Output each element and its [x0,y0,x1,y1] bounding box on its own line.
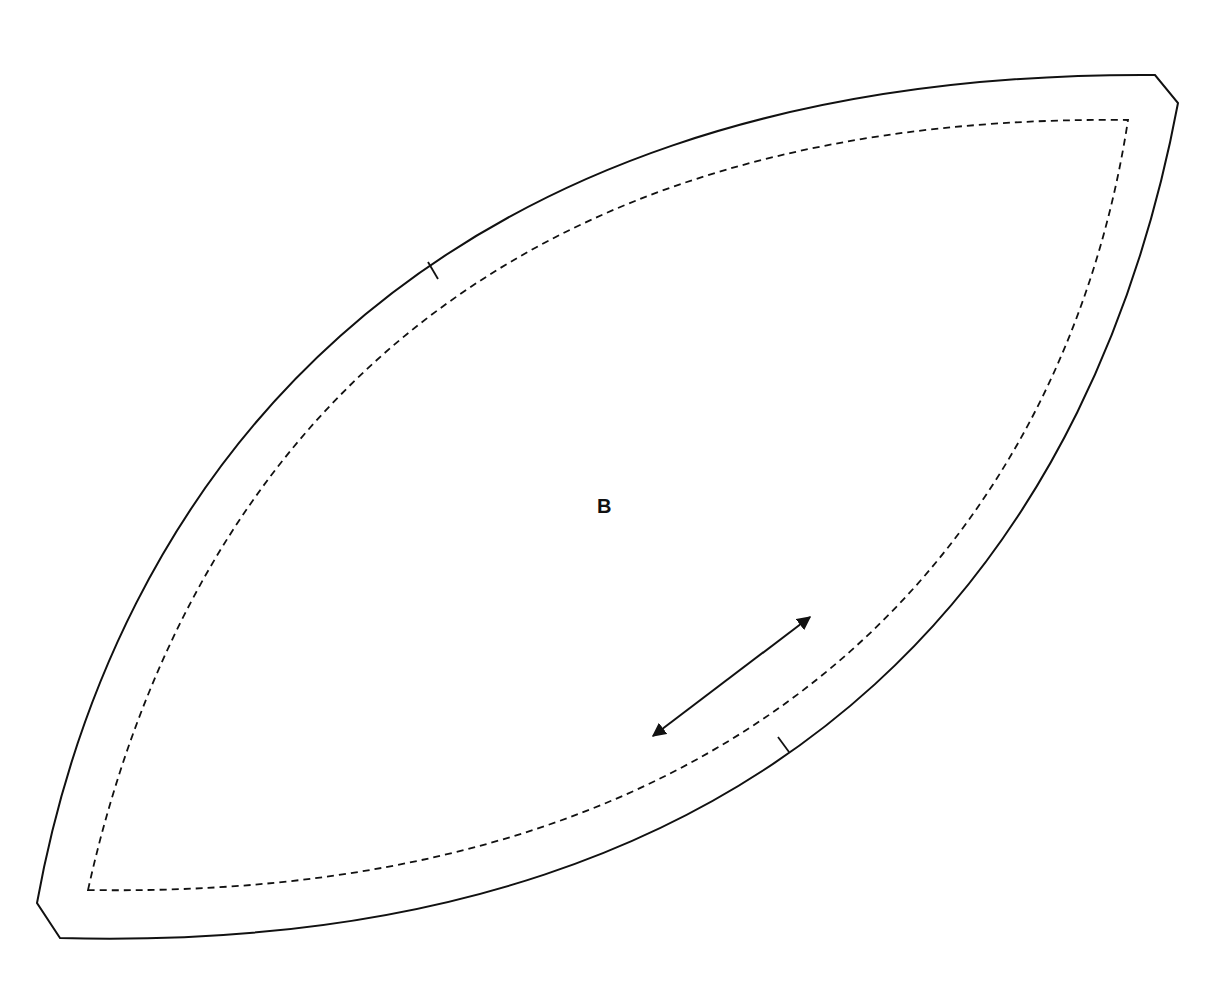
pattern-piece-drawing [0,0,1225,992]
pattern-canvas: B [0,0,1225,992]
notch-lower-right-icon [778,737,789,752]
pattern-piece-label: B [597,496,611,516]
grainline-arrow-icon [653,617,810,736]
